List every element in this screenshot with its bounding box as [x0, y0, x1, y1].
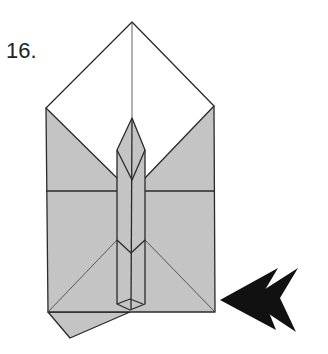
origami-diagram [0, 0, 328, 354]
bottom-left-flap [48, 312, 130, 338]
push-arrow-icon [220, 268, 298, 332]
